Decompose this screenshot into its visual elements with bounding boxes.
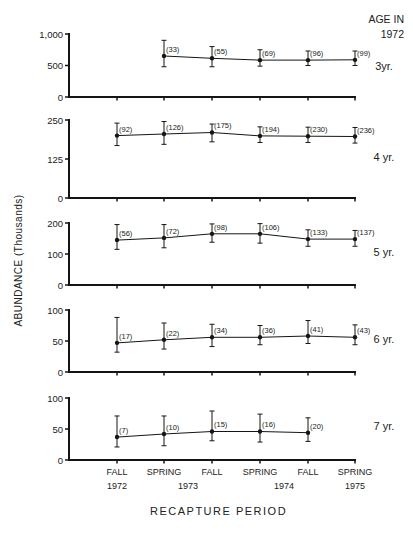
legend-header-line1: AGE IN bbox=[360, 12, 404, 27]
sample-size-label: (72) bbox=[166, 227, 180, 236]
y-tick-label: 125 bbox=[47, 154, 63, 165]
sample-size-label: (106) bbox=[262, 223, 280, 232]
x-year-label: 1973 bbox=[178, 481, 198, 491]
data-point bbox=[162, 54, 166, 58]
y-tick-label: 100 bbox=[47, 393, 63, 404]
y-tick-label: 1,000 bbox=[39, 29, 63, 40]
multi-panel-abundance-chart: 05001,000(33)(55)(69)(96)(99)3yr.0125250… bbox=[0, 0, 413, 533]
sample-size-label: (41) bbox=[310, 325, 324, 334]
data-point bbox=[353, 237, 357, 241]
data-point bbox=[210, 130, 214, 134]
y-tick-label: 100 bbox=[47, 305, 63, 316]
sample-size-label: (10) bbox=[166, 423, 180, 432]
data-point bbox=[306, 237, 310, 241]
age-label: 7 yr. bbox=[374, 420, 395, 432]
sample-size-label: (137) bbox=[357, 228, 375, 237]
y-tick-label: 0 bbox=[58, 280, 63, 291]
sample-size-label: (33) bbox=[166, 45, 180, 54]
sample-size-label: (96) bbox=[310, 49, 324, 58]
data-point bbox=[115, 435, 119, 439]
x-year-label: 1972 bbox=[107, 481, 127, 491]
sample-size-label: (194) bbox=[262, 125, 280, 134]
sample-size-label: (133) bbox=[310, 228, 328, 237]
data-point bbox=[306, 58, 310, 62]
sample-size-label: (99) bbox=[357, 49, 371, 58]
x-axis-title: RECAPTURE PERIOD bbox=[150, 505, 287, 517]
data-point bbox=[353, 335, 357, 339]
data-point bbox=[210, 335, 214, 339]
data-point bbox=[115, 238, 119, 242]
data-point bbox=[162, 132, 166, 136]
data-point bbox=[353, 58, 357, 62]
x-tick-label: FALL bbox=[297, 467, 318, 477]
series-line bbox=[117, 336, 355, 343]
sample-size-label: (15) bbox=[214, 420, 228, 429]
y-tick-label: 0 bbox=[58, 92, 63, 103]
data-point bbox=[258, 335, 262, 339]
x-tick-label: SPRING bbox=[338, 467, 373, 477]
sample-size-label: (69) bbox=[262, 49, 276, 58]
age-label: 4 yr. bbox=[374, 151, 395, 163]
data-point bbox=[306, 334, 310, 338]
y-tick-label: 200 bbox=[47, 218, 63, 229]
sample-size-label: (16) bbox=[262, 420, 276, 429]
data-point bbox=[210, 429, 214, 433]
x-year-label: 1975 bbox=[345, 481, 365, 491]
data-point bbox=[258, 134, 262, 138]
y-tick-label: 100 bbox=[47, 249, 63, 260]
y-tick-label: 50 bbox=[52, 424, 63, 435]
x-year-label: 1974 bbox=[274, 481, 294, 491]
data-point bbox=[306, 134, 310, 138]
data-point bbox=[258, 232, 262, 236]
age-label: 3yr. bbox=[375, 60, 393, 72]
x-tick-label: FALL bbox=[201, 467, 222, 477]
legend-header-line2: 1972 bbox=[360, 27, 404, 42]
sample-size-label: (22) bbox=[166, 329, 180, 338]
age-label: 6 yr. bbox=[374, 333, 395, 345]
y-tick-label: 0 bbox=[58, 367, 63, 378]
sample-size-label: (56) bbox=[119, 229, 133, 238]
data-point bbox=[258, 58, 262, 62]
y-axis-title: ABUNDANCE (Thousands) bbox=[13, 181, 24, 341]
x-tick-label: SPRING bbox=[147, 467, 182, 477]
y-tick-label: 50 bbox=[52, 336, 63, 347]
x-tick-label: FALL bbox=[106, 467, 127, 477]
sample-size-label: (92) bbox=[119, 125, 133, 134]
age-label: 5 yr. bbox=[374, 246, 395, 258]
sample-size-label: (98) bbox=[214, 223, 228, 232]
sample-size-label: (34) bbox=[214, 326, 228, 335]
data-point bbox=[115, 341, 119, 345]
y-tick-label: 0 bbox=[58, 455, 63, 466]
data-point bbox=[162, 236, 166, 240]
data-point bbox=[306, 431, 310, 435]
data-point bbox=[115, 133, 119, 137]
y-tick-label: 0 bbox=[58, 193, 63, 204]
x-tick-label: SPRING bbox=[243, 467, 278, 477]
data-point bbox=[162, 338, 166, 342]
sample-size-label: (236) bbox=[357, 126, 375, 135]
data-point bbox=[210, 232, 214, 236]
y-tick-label: 250 bbox=[47, 115, 63, 126]
data-point bbox=[258, 429, 262, 433]
data-point bbox=[353, 134, 357, 138]
legend-header: AGE IN 1972 bbox=[360, 12, 404, 42]
sample-size-label: (230) bbox=[310, 125, 328, 134]
sample-size-label: (43) bbox=[357, 326, 371, 335]
data-point bbox=[162, 432, 166, 436]
data-point bbox=[210, 56, 214, 60]
sample-size-label: (20) bbox=[310, 422, 324, 431]
sample-size-label: (17) bbox=[119, 332, 133, 341]
sample-size-label: (36) bbox=[262, 326, 276, 335]
sample-size-label: (55) bbox=[214, 47, 228, 56]
sample-size-label: (175) bbox=[214, 121, 232, 130]
y-tick-label: 500 bbox=[47, 60, 63, 71]
sample-size-label: (7) bbox=[119, 426, 129, 435]
sample-size-label: (126) bbox=[166, 123, 184, 132]
